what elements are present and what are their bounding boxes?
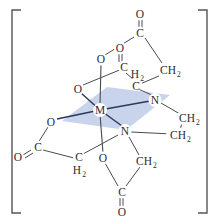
atom-sub-methylene-lower-left: 2 [82,170,86,179]
atom-label-methylene-lower-left-h: H [73,164,81,176]
atom-label-oxygen-axial-upper: O [97,53,105,65]
atom-sub-methylene-upper-right: 2 [177,70,181,79]
bond-nitrogen-lower-methylene-bridge-bottom [131,132,172,134]
bracket-left [12,10,21,213]
bond-carbon-left-oxygen-double-b [25,153,33,158]
chemical-structure-figure: M N N O O O O O C O C O C C O CH 2 C H 2 [0,0,218,224]
atom-label-carbon-upper-mid: C [120,61,128,73]
bond-oxygen-axial-lower-carbon-bottom [105,163,118,186]
atom-label-oxygen-equatorial-left: O [47,116,55,128]
atom-label-carbonyl-oxygen-top: O [136,8,144,20]
atom-label-methylene-lower-left: C [75,151,83,163]
atom-label-nitrogen-lower: N [121,125,130,137]
atom-label-metal-center: M [95,104,105,116]
atom-label-oxygen-equatorial-upper-left: O [74,83,82,95]
bracket-right [198,10,207,213]
bond-carbon-top-methylene-upper-right [145,38,162,63]
atom-sub-methylene-inner-upper: 2 [140,74,144,83]
atom-label-nitrogen-upper: N [151,94,160,106]
atom-sub-methylene-lower-right: 2 [153,161,157,170]
atom-group-methylene-inner-upper: C H 2 [131,68,144,92]
atom-label-carbon-bottom: C [118,186,126,198]
bond-methylene-lower-right-nitrogen-lower [129,137,139,155]
atom-label-methylene-inner-upper: C [132,80,140,92]
label-knockouts [12,8,199,219]
atom-label-methylene-lower-right: CH [136,155,152,167]
atom-label-carbon-left: C [34,141,42,153]
atom-label-methylene-bridge-top: CH [179,112,195,124]
atom-sub-methylene-bridge-top: 2 [196,118,200,127]
bond-oxygen-upper-left-carbon-upper-mid [83,69,122,85]
atom-label-oxygen-axial-lower: O [99,152,107,164]
atom-label-methylene-inner-upper-h: H [131,68,139,80]
atom-label-carbon-top: C [136,27,144,39]
bond-carbon-left-oxygen-double-a [23,150,31,155]
bond-nitrogen-upper-methylene-bridge-top [161,103,180,114]
structure-diagram: M N N O O O O O C O C O C C O CH 2 C H 2 [0,0,218,224]
atom-label-methylene-bridge-bottom: CH [170,129,186,141]
atom-sub-methylene-bridge-bottom: 2 [187,135,191,144]
atom-label-methylene-upper-right: CH [160,64,176,76]
atom-label-carbonyl-oxygen-bottom: O [118,206,126,218]
atom-label-carbonyl-oxygen-upper-mid: O [116,42,124,54]
bond-carbon-bottom-methylene-lower-right [126,167,140,186]
bond-carbon-left-methylene-lower-left [43,150,74,158]
atom-label-carbonyl-oxygen-left: O [14,151,22,163]
